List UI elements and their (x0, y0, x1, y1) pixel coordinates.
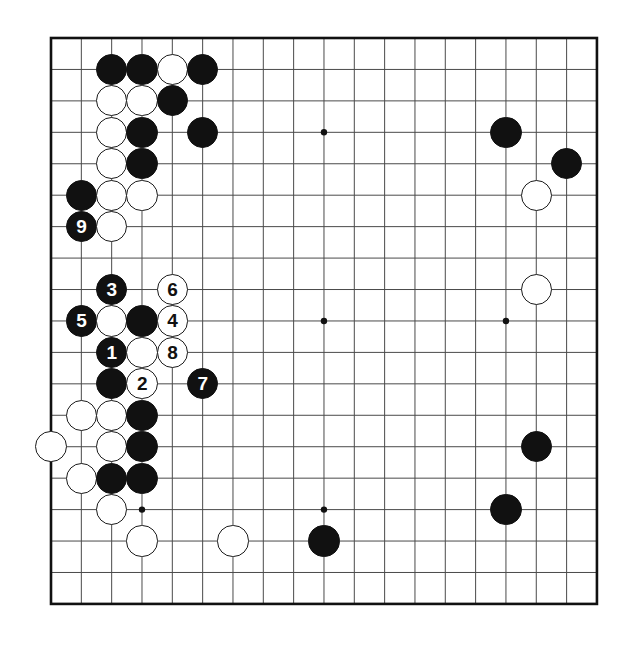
black-stone[interactable] (66, 180, 97, 211)
black-stone[interactable] (126, 148, 157, 179)
black-stone[interactable] (308, 525, 339, 556)
star-point (321, 506, 327, 512)
white-stone[interactable] (96, 305, 127, 336)
star-point (321, 129, 327, 135)
move-stone-5[interactable]: 5 (66, 305, 97, 336)
move-number-label: 8 (167, 343, 177, 362)
move-number-label: 9 (76, 217, 86, 236)
white-stone[interactable] (521, 274, 552, 305)
go-diagram: 936541827 (0, 0, 636, 648)
black-stone[interactable] (126, 431, 157, 462)
white-stone[interactable] (96, 400, 127, 431)
black-stone[interactable] (126, 54, 157, 85)
move-number-label: 1 (107, 343, 117, 362)
white-stone[interactable] (66, 400, 97, 431)
black-stone[interactable] (490, 494, 521, 525)
white-stone[interactable] (157, 54, 188, 85)
move-stone-6[interactable]: 6 (157, 274, 188, 305)
move-stone-8[interactable]: 8 (157, 337, 188, 368)
black-stone[interactable] (96, 463, 127, 494)
black-stone[interactable] (187, 54, 218, 85)
black-stone[interactable] (96, 54, 127, 85)
star-point (139, 506, 145, 512)
black-stone[interactable] (126, 400, 157, 431)
black-stone[interactable] (126, 117, 157, 148)
white-stone[interactable] (126, 525, 157, 556)
move-number-label: 4 (167, 311, 177, 330)
white-stone[interactable] (217, 525, 248, 556)
white-stone[interactable] (521, 180, 552, 211)
white-stone[interactable] (96, 180, 127, 211)
white-stone[interactable] (126, 85, 157, 116)
black-stone[interactable] (187, 117, 218, 148)
star-point (503, 318, 509, 324)
move-stone-4[interactable]: 4 (157, 305, 188, 336)
black-stone[interactable] (521, 431, 552, 462)
black-stone[interactable] (490, 117, 521, 148)
move-number-label: 5 (76, 311, 86, 330)
move-number-label: 2 (137, 374, 147, 393)
star-point (321, 318, 327, 324)
move-stone-2[interactable]: 2 (126, 368, 157, 399)
black-stone[interactable] (126, 463, 157, 494)
white-stone[interactable] (96, 117, 127, 148)
move-stone-1[interactable]: 1 (96, 337, 127, 368)
white-stone[interactable] (126, 180, 157, 211)
white-stone[interactable] (66, 463, 97, 494)
move-number-label: 6 (167, 280, 177, 299)
move-number-label: 7 (198, 374, 208, 393)
move-number-label: 3 (107, 280, 117, 299)
black-stone[interactable] (126, 305, 157, 336)
white-stone[interactable] (35, 431, 66, 462)
move-stone-9[interactable]: 9 (66, 211, 97, 242)
white-stone[interactable] (126, 337, 157, 368)
